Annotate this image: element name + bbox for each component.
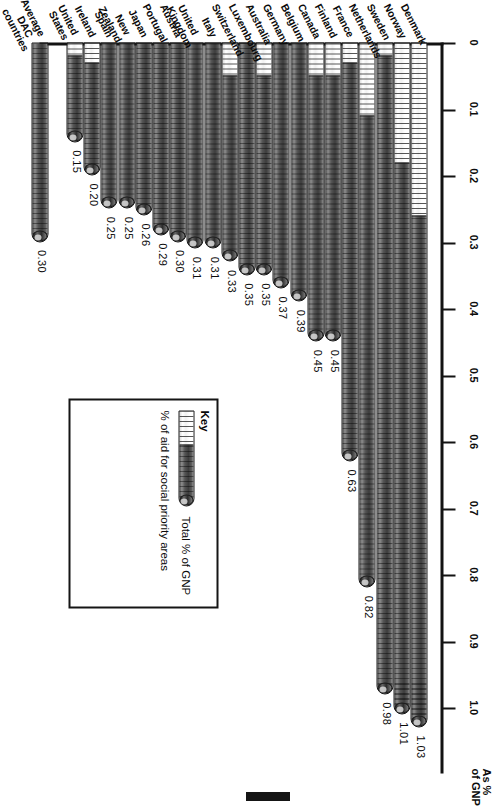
bar-row: 1.01: [393, 42, 410, 714]
bar-value-label: 0.26: [139, 223, 151, 246]
bar-end-cap: [377, 682, 392, 693]
bar-row: 0.37: [272, 42, 289, 288]
axis-tick: [442, 641, 455, 643]
bar-end-cap: [153, 223, 168, 234]
bar-social-priority-segment: [411, 43, 426, 216]
bar-cylinder: [204, 42, 221, 248]
bar-value-label: 0.31: [190, 256, 202, 279]
bar-end-cap: [239, 263, 254, 274]
bar-value-label: 0.25: [104, 216, 116, 239]
bar-social-priority-segment: [394, 43, 409, 163]
bar-value-label: 0.20: [87, 183, 99, 206]
axis-tick: [442, 707, 455, 709]
value-axis-line: [440, 42, 443, 773]
legend-title: Key: [198, 410, 210, 431]
bar-row: 0.35: [255, 42, 272, 275]
bar-cylinder: [341, 42, 358, 461]
bar-cylinder: [307, 42, 324, 341]
bar-row: 0.15: [66, 42, 83, 142]
bar-cylinder: [100, 42, 117, 208]
bar-cylinder: [186, 42, 203, 248]
rotated-chart-canvas: 00.10.20.30.40.50.60.70.80.91.0 As % of …: [0, 0, 497, 811]
legend-box: Key Total % of GNP % of aid for social p…: [68, 398, 218, 608]
bar-value-label: 0.30: [173, 250, 185, 273]
bar-value-label: 0.35: [259, 283, 271, 306]
axis-tick-label: 0.4: [467, 301, 479, 316]
bar-end-cap: [67, 130, 82, 141]
bar-cylinder: [358, 42, 375, 587]
bar-cylinder: [376, 42, 393, 694]
bar-cylinder: [255, 42, 272, 275]
axis-tick: [442, 508, 455, 510]
bar-value-label: 0.25: [122, 216, 134, 239]
bar-cylinder: [83, 42, 100, 175]
bar-cylinder: [410, 42, 427, 727]
bar-cylinder: [135, 42, 152, 215]
legend-swatch-light-segment: [179, 411, 193, 445]
bar-end-cap: [222, 249, 237, 260]
bar-value-label: 0.39: [294, 309, 306, 332]
bar-row: 0.31: [186, 42, 203, 248]
bar-cylinder: [66, 42, 83, 142]
bar-row: 0.29: [152, 42, 169, 235]
bar-social-priority-segment: [308, 43, 323, 76]
bar-row: 0.25: [118, 42, 135, 208]
axis-tick-label: 0.9: [467, 633, 479, 648]
bar-end-cap: [342, 449, 357, 460]
bar-cylinder: [31, 42, 48, 242]
bar-row: 0.35: [238, 42, 255, 275]
bar-row: 0.39: [290, 42, 307, 301]
bar-row: 0.98: [376, 42, 393, 694]
bar-value-label: 0.45: [311, 349, 323, 372]
bar-end-cap: [325, 329, 340, 340]
bar-end-cap: [205, 236, 220, 247]
bar-end-cap: [394, 702, 409, 713]
bar-row: 0.45: [307, 42, 324, 341]
axis-tick-label: 0.7: [467, 500, 479, 515]
axis-tick-label: 0.3: [467, 234, 479, 249]
bar-cylinder: [393, 42, 410, 714]
scan-artifact-mark: [246, 792, 290, 801]
bar-cylinder: [272, 42, 289, 288]
axis-tick: [442, 308, 455, 310]
axis-tick: [442, 375, 455, 377]
legend-swatch-icon: [178, 410, 194, 506]
bar-value-label: 0.63: [345, 469, 357, 492]
axis-tick-label: 0: [467, 39, 479, 45]
legend-label-social: % of aid for social priority areas: [158, 410, 170, 570]
category-label: Average DAC countries: [0, 0, 44, 43]
axis-tick-label: 1.0: [467, 700, 479, 715]
axis-tick-label: 0.6: [467, 434, 479, 449]
bar-cylinder: [152, 42, 169, 235]
bar-end-cap: [84, 163, 99, 174]
bar-end-cap: [411, 715, 426, 726]
bar-value-label: 0.45: [328, 349, 340, 372]
bar-row: 0.31: [204, 42, 221, 248]
bar-value-label: 0.35: [242, 283, 254, 306]
bar-chart-plot-area: 00.10.20.30.40.50.60.70.80.91.0 As % of …: [0, 0, 497, 811]
bar-row: 0.30: [31, 42, 48, 242]
bar-value-label: 0.31: [208, 256, 220, 279]
bar-cylinder: [324, 42, 341, 341]
bar-social-priority-segment: [84, 43, 99, 63]
axis-title: As % of GNP: [469, 768, 491, 805]
bar-value-label: 1.03: [414, 735, 426, 758]
bar-end-cap: [291, 289, 306, 300]
bar-end-cap: [359, 575, 374, 586]
bar-row: 0.33: [221, 42, 238, 261]
axis-tick-label: 0.8: [467, 567, 479, 582]
bar-cylinder: [290, 42, 307, 301]
bar-row: 0.45: [324, 42, 341, 341]
bar-end-cap: [136, 203, 151, 214]
bar-row: 0.20: [83, 42, 100, 175]
bar-social-priority-segment: [342, 43, 357, 63]
axis-tick: [442, 175, 455, 177]
bar-end-cap: [170, 230, 185, 241]
bar-value-label: 0.98: [380, 702, 392, 725]
bar-cylinder: [238, 42, 255, 275]
bar-value-label: 0.37: [276, 296, 288, 319]
bar-social-priority-segment: [325, 43, 340, 76]
bar-cylinder: [221, 42, 238, 261]
axis-tick-label: 0.1: [467, 101, 479, 116]
bar-row: 0.30: [169, 42, 186, 242]
